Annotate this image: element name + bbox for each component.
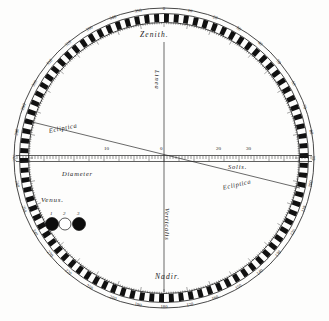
svg-text:280: 280 [14,127,20,135]
label-linea: Linea [154,70,161,90]
svg-text:20: 20 [212,14,219,21]
venus-disc-1 [46,218,59,231]
venus-disc-3 [73,218,86,231]
svg-text:350: 350 [134,7,142,13]
svg-text:170: 170 [186,301,194,307]
svg-text:290: 290 [20,102,27,111]
svg-text:330: 330 [85,24,94,32]
svg-text:300: 300 [31,78,39,87]
label-zenith: Zenith. [140,30,169,39]
svg-text:160: 160 [211,294,220,301]
label-solis: Solis. [228,163,247,170]
diameter-scale-tick-label: 20 [216,146,221,151]
venus-disc-label-1: 1 [50,211,53,216]
diameter-scale-tick-label: 10 [104,146,109,151]
svg-text:30: 30 [236,25,243,32]
svg-text:340: 340 [109,14,118,21]
svg-text:80: 80 [308,129,314,135]
svg-text:90: 90 [311,156,316,161]
svg-text:40: 40 [257,40,264,47]
svg-text:70: 70 [301,104,308,111]
diameter-scale [16,156,312,162]
diameter-scale-tick-label: 0 [160,146,163,151]
venus-discs [46,218,86,231]
svg-text:180: 180 [161,304,169,309]
astronomical-plate: 0102030405060708090100110120130140150160… [0,0,329,321]
venus-disc-2 [59,218,71,230]
venus-disc-label-2: 2 [63,211,66,216]
svg-text:100: 100 [307,179,313,187]
label-venus: Venus. [41,196,64,204]
svg-text:270: 270 [12,154,17,162]
svg-text:260: 260 [14,180,20,188]
ecliptic-line [32,122,300,188]
svg-text:250: 250 [21,205,28,214]
label-nadir: Nadir. [155,272,180,281]
venus-disc-label-3: 3 [77,211,80,216]
svg-text:310: 310 [45,57,54,66]
label-diameter: Diameter [62,170,93,177]
svg-text:190: 190 [134,301,142,307]
label-verticalis: Verticalis [164,208,171,241]
diameter-scale-tick-label: 30 [246,146,251,151]
svg-text:60: 60 [290,80,297,87]
